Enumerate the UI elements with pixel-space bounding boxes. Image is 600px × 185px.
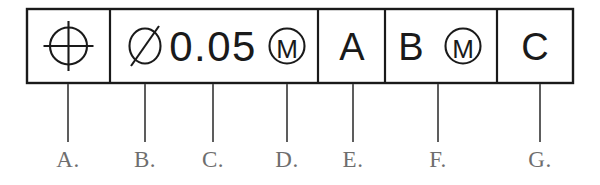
callout-label-d: D. (275, 148, 298, 171)
tertiary-datum-letter: C (521, 26, 548, 68)
callout-label-f: F. (429, 148, 447, 171)
callout-label-a: A. (56, 148, 79, 171)
callout-label-e: E. (343, 148, 364, 171)
callout-label-c: C. (202, 148, 224, 171)
leader-lines-group (68, 84, 540, 142)
callout-label-b: B. (134, 148, 156, 171)
secondary-datum-letter: B (398, 26, 423, 68)
callout-label-g: G. (528, 148, 551, 171)
primary-datum-letter: A (339, 26, 365, 68)
tolerance-modifier: M (276, 34, 298, 64)
feature-control-frame-diagram: 0.05 M A B M C (0, 0, 600, 185)
secondary-datum-modifier: M (452, 34, 474, 64)
tolerance-value: 0.05 (169, 23, 257, 70)
diagram-canvas: 0.05 M A B M C A.B.C.D.E.F.G. (0, 0, 600, 185)
